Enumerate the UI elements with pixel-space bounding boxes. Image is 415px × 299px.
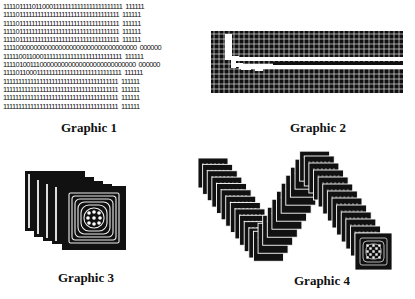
graphic-4-wave-of-squares — [0, 0, 415, 299]
graphic-4-caption: Graphic 4 — [294, 273, 350, 289]
